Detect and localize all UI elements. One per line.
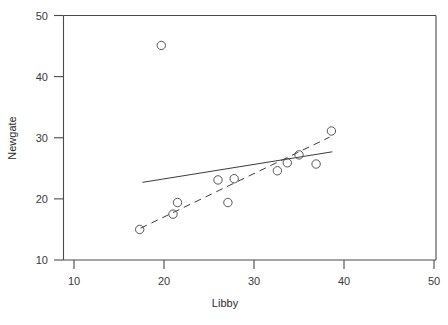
data-point-marker (173, 198, 181, 206)
scatter-plot-figure: 1020304050 1020304050 Libby Newgate (0, 0, 448, 325)
y-tick-label: 50 (36, 10, 48, 22)
x-tick-label: 50 (428, 275, 440, 287)
y-tick-label: 40 (36, 71, 48, 83)
y-axis-tick-labels: 1020304050 (36, 10, 48, 267)
regression-line-solid (142, 152, 332, 183)
y-tick-label: 30 (36, 132, 48, 144)
data-point-marker (157, 41, 165, 49)
y-axis-title: Newgate (6, 116, 18, 159)
x-axis-title: Libby (212, 297, 239, 309)
data-point-marker (283, 159, 291, 167)
data-point-marker (327, 127, 335, 135)
data-point-marker (214, 176, 222, 184)
data-point-marker (273, 167, 281, 175)
data-point-marker (169, 210, 177, 218)
x-axis-ticks (74, 260, 434, 269)
data-point-marker (295, 151, 303, 159)
x-axis-tick-labels: 1020304050 (68, 275, 440, 287)
plot-canvas: 1020304050 1020304050 Libby Newgate (0, 0, 448, 325)
y-axis-ticks (54, 16, 64, 261)
x-tick-label: 20 (158, 275, 170, 287)
data-point-marker (224, 198, 232, 206)
data-point-marker (136, 225, 144, 233)
y-tick-label: 10 (36, 254, 48, 266)
x-tick-label: 40 (338, 275, 350, 287)
x-tick-label: 10 (68, 275, 80, 287)
y-tick-label: 20 (36, 193, 48, 205)
x-tick-label: 30 (248, 275, 260, 287)
data-point-marker (230, 175, 238, 183)
data-points-group (136, 41, 336, 233)
data-point-marker (312, 160, 320, 168)
